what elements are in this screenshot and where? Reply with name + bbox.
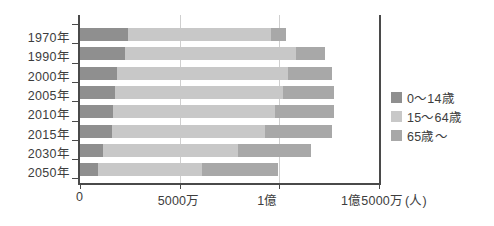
bar-segment bbox=[80, 125, 112, 138]
legend-swatch-icon bbox=[391, 130, 402, 141]
y-axis-label-text: 2015年 bbox=[4, 124, 70, 143]
bar-segment bbox=[275, 105, 334, 118]
legend-label: 0〜14歳 bbox=[407, 88, 455, 107]
bar-row bbox=[80, 86, 379, 99]
y-axis-label-text: 2005年 bbox=[4, 85, 70, 104]
y-axis-label-text: 2010年 bbox=[4, 104, 70, 123]
x-tick-1億 bbox=[279, 183, 280, 189]
x-tick-label-0: 0 bbox=[76, 190, 83, 204]
bar-segment bbox=[80, 86, 115, 99]
bar-row bbox=[80, 144, 379, 157]
bar-segment bbox=[98, 163, 202, 176]
bar-segment bbox=[125, 47, 296, 60]
y-axis-label-text: 2050年 bbox=[4, 162, 70, 181]
bar-segment bbox=[296, 47, 325, 60]
bar-segment bbox=[80, 28, 128, 41]
bar-row bbox=[80, 47, 379, 60]
x-axis-line bbox=[78, 183, 381, 185]
plot-right-border bbox=[379, 15, 381, 185]
bar-row bbox=[80, 105, 379, 118]
y-axis-label-text: 1990年 bbox=[4, 46, 70, 65]
legend-item-legend-65-up: 65歳〜 bbox=[391, 126, 491, 145]
x-tick-5000万 bbox=[180, 183, 181, 189]
bar-row bbox=[80, 28, 379, 41]
legend-item-legend-15-64: 15〜64歳 bbox=[391, 107, 491, 126]
bar-segment bbox=[238, 144, 312, 157]
bar-segment bbox=[115, 86, 282, 99]
bar-segment bbox=[80, 105, 113, 118]
legend-label: 65歳〜 bbox=[407, 126, 448, 145]
legend-label: 15〜64歳 bbox=[407, 107, 462, 126]
bar-segment bbox=[80, 47, 125, 60]
bar-segment bbox=[271, 28, 286, 41]
x-tick-label-1億: 1億 bbox=[257, 190, 277, 209]
bar-segment bbox=[112, 125, 265, 138]
bar-segment bbox=[80, 67, 117, 80]
x-tick-1億5000万 bbox=[379, 183, 380, 189]
x-tick-0 bbox=[80, 183, 81, 189]
bar-segment bbox=[80, 163, 98, 176]
bar-row bbox=[80, 163, 379, 176]
x-tick-label-1億5000万: 1億5000万 bbox=[341, 190, 403, 209]
bar-segment bbox=[80, 144, 103, 157]
bar-segment bbox=[117, 67, 288, 80]
bar-segment bbox=[103, 144, 238, 157]
bar-segment bbox=[283, 86, 334, 99]
bar-segment bbox=[113, 105, 274, 118]
bar-segment bbox=[288, 67, 332, 80]
legend-swatch-icon bbox=[391, 111, 402, 122]
y-axis-label-text: 2030年 bbox=[4, 143, 70, 162]
y-axis-label-text: 1970年 bbox=[4, 27, 70, 46]
legend: 0〜14歳15〜64歳65歳〜 bbox=[391, 88, 491, 145]
bar-row bbox=[80, 125, 379, 138]
y-axis-line bbox=[78, 15, 80, 183]
x-axis-unit-label: (人) bbox=[405, 190, 427, 209]
population-pyramid-stacked-bar-chart: 1970年1990年2000年2005年2010年2015年2030年2050年… bbox=[0, 0, 494, 226]
bar-segment bbox=[202, 163, 279, 176]
bar-row bbox=[80, 67, 379, 80]
legend-item-legend-0-14: 0〜14歳 bbox=[391, 88, 491, 107]
y-axis-label-text: 2000年 bbox=[4, 66, 70, 85]
x-tick-label-5000万: 5000万 bbox=[158, 190, 200, 209]
bar-segment bbox=[265, 125, 332, 138]
legend-swatch-icon bbox=[391, 92, 402, 103]
bar-segment bbox=[128, 28, 272, 41]
